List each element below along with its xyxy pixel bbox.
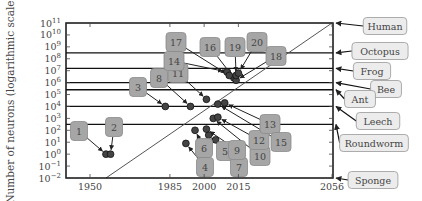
- point-label-20: 20: [247, 33, 267, 52]
- y-tick-label: 103: [44, 112, 61, 124]
- point-label-19: 19: [225, 38, 245, 57]
- svg-text:20: 20: [251, 37, 263, 48]
- species-label-frog: Frog: [336, 63, 391, 80]
- data-point-3: [162, 103, 169, 110]
- point-label-1: 1: [71, 122, 88, 141]
- species-label-sponge: Sponge: [336, 172, 398, 189]
- neuron-count-chart: 1234567891011121314151617181920 10111010…: [0, 0, 422, 201]
- svg-text:Octopus: Octopus: [360, 46, 400, 57]
- svg-text:Human: Human: [367, 21, 402, 32]
- species-label-human: Human: [336, 18, 407, 35]
- data-point-11: [203, 96, 210, 103]
- y-tick-label: 109: [44, 40, 61, 52]
- data-point-9: [203, 126, 210, 133]
- svg-text:8: 8: [156, 73, 162, 84]
- data-point-2: [107, 151, 114, 158]
- data-point-20: [235, 70, 242, 77]
- svg-text:18: 18: [270, 51, 282, 62]
- svg-text:12: 12: [253, 135, 265, 146]
- y-tick-label: 102: [44, 124, 61, 136]
- svg-text:7: 7: [236, 162, 242, 173]
- data-point-6: [192, 127, 199, 134]
- data-point-17: [226, 72, 233, 79]
- svg-text:Leech: Leech: [364, 116, 393, 127]
- y-tick-label: 10−1: [39, 160, 61, 172]
- svg-text:Sponge: Sponge: [355, 175, 392, 186]
- y-tick-label: 108: [44, 52, 61, 64]
- point-label-2: 2: [106, 118, 123, 137]
- svg-text:5: 5: [222, 146, 228, 157]
- svg-text:Ant: Ant: [351, 94, 369, 105]
- point-label-15: 15: [271, 133, 291, 152]
- svg-text:2: 2: [111, 122, 117, 133]
- species-label-leech: Leech: [336, 106, 400, 129]
- svg-text:17: 17: [170, 37, 182, 48]
- y-tick-label: 1011: [40, 17, 61, 29]
- svg-text:4: 4: [202, 162, 208, 173]
- svg-text:16: 16: [204, 42, 216, 53]
- svg-text:13: 13: [264, 119, 276, 130]
- x-tick-label: 1950: [78, 181, 102, 192]
- point-label-17: 17: [166, 33, 186, 52]
- point-label-8: 8: [151, 69, 168, 88]
- svg-text:Frog: Frog: [361, 66, 384, 77]
- y-tick-label: 10−2: [39, 172, 61, 184]
- data-point-12: [214, 114, 221, 121]
- point-label-3: 3: [130, 78, 147, 97]
- point-label-4: 4: [197, 158, 214, 177]
- x-tick-label: 1985: [158, 181, 182, 192]
- x-tick-label: 2000: [192, 181, 216, 192]
- svg-text:19: 19: [229, 42, 241, 53]
- y-tick-label: 101: [44, 136, 61, 148]
- point-label-7: 7: [231, 158, 248, 177]
- species-label-ant: Ant: [336, 90, 375, 108]
- data-point-4: [182, 140, 189, 147]
- point-label-13: 13: [260, 115, 280, 134]
- species-labels: HumanOctopusFrogBeeAntLeechRoundwormSpon…: [336, 18, 408, 189]
- svg-text:9: 9: [234, 145, 240, 156]
- data-point-8: [187, 103, 194, 110]
- y-tick-label: 104: [44, 100, 61, 112]
- y-tick-label: 106: [44, 76, 61, 88]
- x-tick-label: 2015: [226, 181, 250, 192]
- svg-text:1: 1: [76, 126, 82, 137]
- point-label-14: 14: [164, 52, 184, 71]
- y-tick-label: 107: [44, 64, 61, 76]
- svg-text:Roundworm: Roundworm: [345, 138, 404, 149]
- point-label-18: 18: [266, 47, 286, 66]
- svg-text:15: 15: [275, 137, 287, 148]
- species-label-octopus: Octopus: [336, 43, 408, 60]
- data-point-13: [221, 99, 228, 106]
- svg-text:10: 10: [254, 151, 266, 162]
- y-tick-label: 105: [44, 88, 61, 100]
- y-tick-label: 1010: [40, 28, 61, 40]
- y-axis-label: Number of neurons (logarithmic scale): [4, 0, 16, 201]
- svg-text:3: 3: [135, 82, 141, 93]
- y-tick-label: 100: [44, 148, 61, 160]
- point-label-6: 6: [196, 139, 213, 158]
- x-tick-label: 2056: [320, 181, 344, 192]
- data-point-15: [214, 101, 221, 108]
- svg-text:14: 14: [168, 56, 180, 67]
- point-label-16: 16: [200, 38, 220, 57]
- svg-text:6: 6: [201, 143, 207, 154]
- svg-text:Bee: Bee: [377, 84, 396, 95]
- point-label-9: 9: [229, 141, 246, 160]
